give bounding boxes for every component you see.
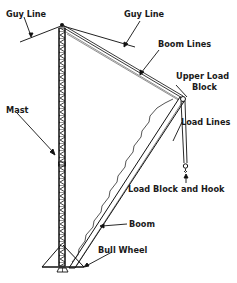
- load-lines: [181, 101, 187, 163]
- label-boom: Boom: [129, 220, 155, 229]
- load-block-and-hook: [183, 164, 187, 173]
- label-upper-load-block-line1: Upper Load: [176, 72, 229, 81]
- label-mast: Mast: [6, 106, 28, 115]
- label-guy-line-left: Guy Line: [6, 10, 46, 19]
- boom: [69, 97, 185, 268]
- label-bull-wheel: Bull Wheel: [98, 246, 147, 255]
- derrick-diagram: Guy Line Guy Line Boom Lines Upper Load …: [0, 0, 237, 283]
- label-guy-line-right: Guy Line: [124, 10, 164, 19]
- label-load-lines: Load Lines: [181, 118, 230, 127]
- boom-lines: [63, 25, 184, 101]
- label-upper-load-block-line2: Block: [192, 83, 217, 92]
- mast: [59, 23, 66, 266]
- label-boom-lines: Boom Lines: [158, 40, 211, 49]
- upper-load-block: [181, 97, 186, 102]
- label-load-block-and-hook: Load Block and Hook: [128, 185, 225, 194]
- leader-lines: [17, 17, 188, 267]
